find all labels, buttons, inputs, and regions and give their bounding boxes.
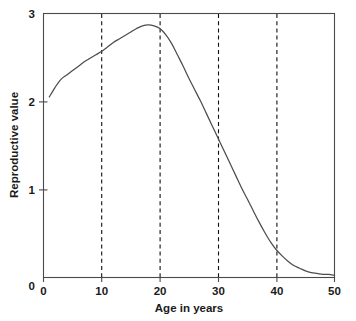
x-axis-title: Age in years bbox=[155, 302, 223, 314]
x-tick-label-40: 40 bbox=[271, 285, 284, 297]
x-tick-label-30: 30 bbox=[212, 285, 225, 297]
y-tick-label-0: 0 bbox=[29, 280, 35, 292]
y-tick-label-2: 2 bbox=[29, 96, 35, 108]
y-tick-label-3: 3 bbox=[29, 8, 35, 20]
y-axis-title: Reproductive value bbox=[8, 92, 20, 198]
x-tick-label-0: 0 bbox=[40, 285, 46, 297]
x-tick-label-50: 50 bbox=[328, 285, 341, 297]
x-tick-label-20: 20 bbox=[154, 285, 167, 297]
x-tick-label-10: 10 bbox=[95, 285, 108, 297]
reproductive-value-line-chart: 3 2 1 0 0 10 20 30 40 50 Age in years Re… bbox=[0, 0, 356, 321]
chart-background bbox=[0, 0, 356, 321]
y-tick-label-1: 1 bbox=[29, 184, 36, 196]
chart-container: 3 2 1 0 0 10 20 30 40 50 Age in years Re… bbox=[0, 0, 356, 321]
